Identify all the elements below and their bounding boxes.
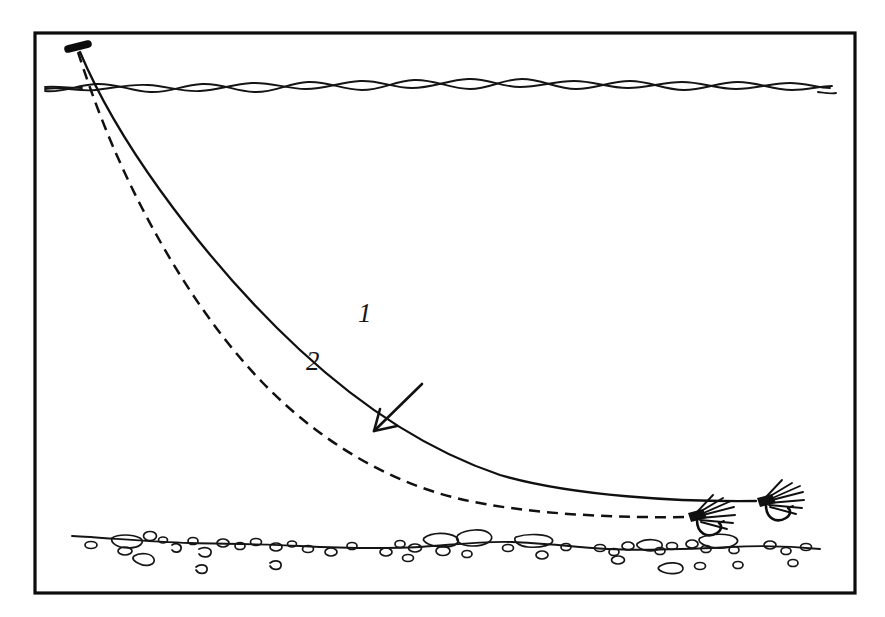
- gravel-pebbles: [85, 530, 812, 574]
- water-surface: [45, 79, 836, 93]
- rod-tip: [68, 44, 88, 49]
- diagram-canvas: 1 2: [0, 0, 885, 617]
- fly-on-solid-leader: [757, 480, 804, 520]
- figure-root: 1 2: [0, 0, 885, 617]
- diagram-border: [35, 33, 855, 593]
- leader-curve-2-dashed: [78, 52, 690, 517]
- pointer-arrow: [374, 384, 422, 431]
- curve-label-2: 2: [306, 346, 320, 376]
- leader-curve-1-solid: [80, 52, 756, 501]
- curve-label-1: 1: [358, 298, 372, 328]
